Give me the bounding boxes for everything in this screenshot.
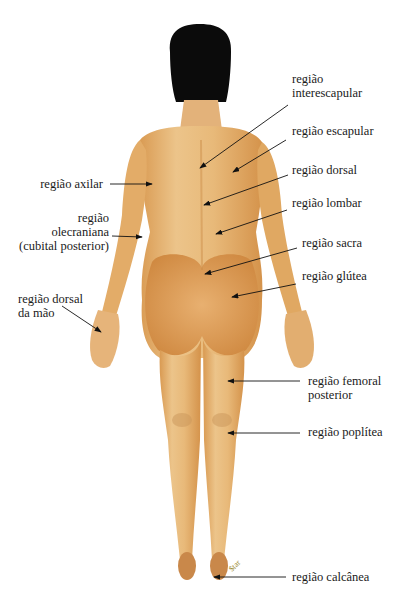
label-olecraniana: região olecraniana (cubital posterior): [19, 211, 109, 253]
right-leg: [203, 340, 244, 560]
label-sacra: região sacra: [302, 236, 362, 250]
right-heel: [210, 552, 228, 580]
left-hand: [90, 310, 120, 368]
label-dorsal-mao: região dorsal da mão: [18, 292, 83, 320]
right-hand: [284, 310, 314, 368]
left-leg: [160, 340, 201, 560]
label-escapular: região escapular: [292, 124, 374, 138]
hair: [170, 24, 231, 102]
left-heel: [178, 552, 196, 580]
label-calcanea: região calcânea: [292, 570, 369, 584]
label-poplitea: região poplítea: [308, 425, 383, 439]
label-interescapular: região interescapular: [292, 72, 362, 100]
neck: [180, 100, 222, 130]
label-dorsal: região dorsal: [292, 163, 357, 177]
label-lombar: região lombar: [292, 196, 362, 210]
label-femoral-posterior: região femoral posterior: [308, 374, 381, 402]
label-axilar: região axilar: [40, 177, 103, 191]
label-glutea: região glútea: [302, 269, 367, 283]
svg-text:$tar: $tar: [227, 558, 242, 573]
